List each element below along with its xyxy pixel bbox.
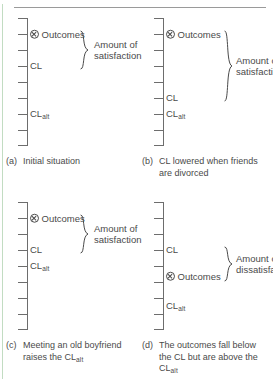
level-outcomes-b: Outcomes: [166, 29, 221, 40]
level-cl-a: CL: [30, 61, 42, 71]
scale-tick: [18, 66, 28, 67]
level-label-sub: alt: [42, 113, 49, 120]
scale-tick: [154, 130, 164, 131]
scale-tick: [18, 82, 28, 83]
brace-c: [80, 214, 90, 254]
scale-tick: [154, 250, 164, 251]
scale-tick: [18, 98, 28, 99]
caption-tag: (a): [6, 156, 17, 168]
level-label: Outcomes: [178, 29, 221, 40]
scale-tick: [154, 218, 164, 219]
caption-line1: Meeting an old boyfriend: [23, 340, 122, 350]
scale-c: [18, 202, 28, 330]
level-label: CL: [166, 300, 178, 311]
scale-tick: [18, 234, 28, 235]
brace-label-a: Amount of satisfaction: [94, 39, 142, 61]
scale-tick: [18, 218, 28, 219]
level-outcomes-a: Outcomes: [30, 29, 85, 40]
brace-label-line2: satisfaction: [94, 234, 142, 245]
level-label: CL: [30, 244, 42, 255]
caption-a: (a) Initial situation: [6, 156, 134, 168]
level-label: CL: [30, 260, 42, 271]
brace-a: [80, 30, 90, 70]
brace-d: [224, 246, 234, 282]
scale-tick: [18, 18, 28, 19]
caption-line3: CL: [159, 363, 171, 373]
caption-line1: The outcomes fall below: [159, 340, 256, 350]
scale-tick: [154, 145, 164, 146]
panel-a: Outcomes CL CLalt Amount of satisfaction…: [4, 12, 136, 202]
scale-tick: [154, 298, 164, 299]
caption-line2: the CL but are above the: [159, 352, 258, 362]
caption-line1: CL lowered when friends: [159, 156, 258, 166]
brace-label-line2: satisfaction: [94, 50, 142, 61]
scale-a: [18, 18, 28, 146]
brace-label-b: Amount of satisfaction: [236, 55, 273, 77]
scale-tick: [18, 145, 28, 146]
caption-sub: alt: [76, 356, 83, 363]
level-outcomes-d: Outcomes: [166, 271, 221, 282]
level-cl-alt-d: CLalt: [166, 301, 186, 312]
scale-tick: [154, 266, 164, 267]
level-cl-alt-c: CLalt: [30, 261, 50, 272]
caption-line2: raises the CL: [23, 352, 76, 362]
level-cl-alt-a: CLalt: [30, 109, 50, 120]
scale-tick: [154, 82, 164, 83]
scale-tick: [154, 234, 164, 235]
outcomes-marker-icon: [166, 272, 175, 281]
brace-label-d: Amount of dissatisfaction: [236, 253, 273, 275]
scale-tick: [154, 98, 164, 99]
level-label: CL: [30, 108, 42, 119]
scale-tick: [18, 130, 28, 131]
outcomes-marker-icon: [30, 30, 39, 39]
scale-d: [154, 202, 164, 330]
level-label: CL: [166, 92, 178, 103]
level-cl-alt-b: CLalt: [166, 109, 186, 120]
brace-label-c: Amount of satisfaction: [94, 223, 142, 245]
brace-b: [224, 30, 234, 102]
level-label-sub: alt: [178, 305, 185, 312]
brace-label-line2: dissatisfaction: [236, 264, 273, 275]
scale-tick: [18, 266, 28, 267]
scale-tick: [154, 329, 164, 330]
scale-b: [154, 18, 164, 146]
scale-tick: [154, 314, 164, 315]
brace-label-line1: Amount of: [236, 253, 273, 264]
outcomes-marker-icon: [166, 30, 175, 39]
scale-tick: [18, 298, 28, 299]
caption-tag: (c): [6, 340, 17, 352]
level-cl-d: CL: [166, 245, 178, 255]
scale-tick: [18, 34, 28, 35]
caption-tag: (d): [142, 340, 153, 352]
caption-b: (b) CL lowered when friendsare divorced: [142, 156, 270, 179]
scale-tick: [154, 282, 164, 283]
level-label-sub: alt: [178, 113, 185, 120]
panel-d: CL Outcomes CLalt Amount of dissatisfact…: [140, 196, 272, 381]
scale-tick: [154, 66, 164, 67]
level-cl-b: CL: [166, 93, 178, 103]
caption-tag: (b): [142, 156, 153, 168]
scale-tick: [154, 114, 164, 115]
caption-text: Meeting an old boyfriendraises the CLalt: [23, 340, 134, 363]
scale-tick: [154, 202, 164, 203]
panel-c: Outcomes CL CLalt Amount of satisfaction…: [4, 196, 136, 381]
caption-text: Initial situation: [23, 156, 134, 168]
scale-tick: [18, 50, 28, 51]
level-label: CL: [166, 108, 178, 119]
brace-label-line1: Amount of: [94, 39, 142, 50]
level-label: Outcomes: [42, 29, 85, 40]
brace-label-line2: satisfaction: [236, 66, 273, 77]
level-label: CL: [166, 244, 178, 255]
level-cl-c: CL: [30, 245, 42, 255]
scale-tick: [18, 329, 28, 330]
caption-d: (d) The outcomes fall belowthe CL but ar…: [142, 340, 270, 375]
caption-line2: are divorced: [159, 168, 209, 178]
top-rule: [14, 7, 266, 8]
green-edge-trim: [2, 4, 3, 379]
scale-tick: [18, 114, 28, 115]
caption-text: CL lowered when friendsare divorced: [159, 156, 270, 179]
level-label: Outcomes: [178, 271, 221, 282]
caption-text: The outcomes fall belowthe CL but are ab…: [159, 340, 270, 375]
scale-tick: [154, 50, 164, 51]
scale-tick: [154, 34, 164, 35]
